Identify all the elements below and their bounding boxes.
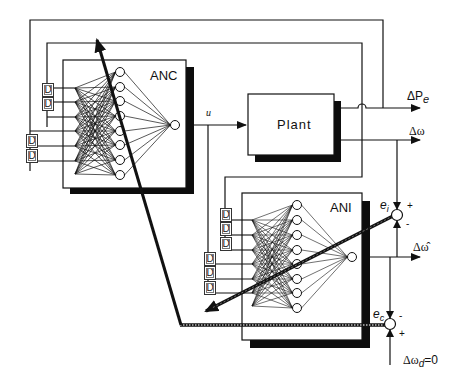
ec-minus-sign: -: [399, 310, 402, 321]
anc-delay-3: D: [26, 134, 38, 148]
ei-label: ei: [380, 198, 389, 214]
plant-label: Plant: [277, 117, 312, 132]
ei-plus-sign: +: [407, 200, 413, 211]
delta-omega-d-label: Δωd=0: [403, 353, 438, 369]
delta-omega-hat-label: Δω̂: [413, 240, 429, 255]
ani-delay-3: D: [220, 237, 232, 251]
ec-plus-sign: +: [399, 328, 405, 339]
anc-delay-4: D: [26, 149, 38, 163]
anc-delay-1: D: [42, 83, 54, 97]
ani-delay-4: D: [204, 252, 216, 266]
block-diagram-canvas: [0, 0, 456, 383]
ani-label: ANI: [330, 200, 352, 215]
ei-minus-sign: -: [406, 218, 409, 229]
ani-delay-5: D: [204, 266, 216, 280]
ec-label: ec: [373, 307, 384, 323]
ani-delay-2: D: [220, 222, 232, 236]
delta-omega-label: Δω: [409, 124, 425, 139]
ec-summing-junction: [385, 319, 396, 330]
anc-delay-2: D: [42, 97, 54, 111]
ei-summing-junction: [392, 210, 403, 221]
u-signal-label: u: [206, 107, 211, 118]
ani-delay-6: D: [204, 281, 216, 295]
delta-pe-label: ΔPe: [407, 89, 429, 105]
anc-label: ANC: [150, 68, 177, 83]
ani-delay-1: D: [220, 208, 232, 222]
